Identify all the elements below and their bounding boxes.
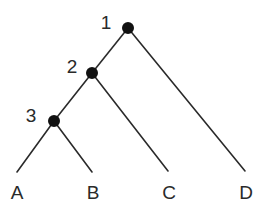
branch-1-2 (92, 28, 128, 73)
cladogram (0, 0, 266, 221)
branch-1-D (128, 28, 245, 171)
branch-3-B (54, 121, 92, 172)
leaf-label-c: C (162, 183, 176, 202)
node-label-1: 1 (101, 13, 112, 32)
leaf-label-a: A (11, 183, 24, 202)
node-label-3: 3 (26, 106, 37, 125)
leaf-label-b: B (87, 183, 100, 202)
branch-2-C (92, 73, 168, 171)
node-dot-2 (86, 67, 98, 79)
node-dot-1 (122, 22, 134, 34)
branch-2-3 (54, 73, 92, 121)
leaf-label-d: D (239, 183, 253, 202)
branch-3-A (17, 121, 54, 172)
branch-group (17, 28, 245, 172)
node-dot-3 (48, 115, 60, 127)
node-label-2: 2 (67, 57, 78, 76)
